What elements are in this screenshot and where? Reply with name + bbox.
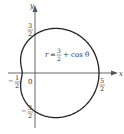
- svg-text:5: 5: [100, 77, 104, 85]
- svg-text:r: r: [45, 51, 49, 59]
- x-intercept-left-label: − 1 2: [8, 74, 20, 90]
- equation-label: r = 3 2 + cos θ: [45, 47, 89, 62]
- x-axis-label: x: [119, 70, 123, 78]
- origin-label: 0: [28, 78, 32, 86]
- svg-text:−: −: [21, 107, 26, 115]
- svg-text:3: 3: [28, 104, 32, 112]
- svg-text:1: 1: [15, 74, 19, 82]
- svg-text:2: 2: [28, 30, 32, 38]
- x-axis-arrow-icon: [111, 71, 118, 76]
- x-intercept-right-label: 5 2: [100, 77, 106, 93]
- y-intercept-top-label: 3 2: [28, 22, 34, 38]
- svg-text:+ cos θ: + cos θ: [63, 51, 89, 59]
- svg-text:3: 3: [57, 47, 61, 54]
- svg-text:3: 3: [28, 22, 32, 30]
- y-intercept-bottom-label: − 3 2: [21, 104, 33, 120]
- svg-text:2: 2: [100, 85, 104, 93]
- svg-text:−: −: [8, 77, 13, 85]
- svg-text:=: =: [50, 51, 56, 59]
- svg-text:2: 2: [28, 112, 32, 120]
- polar-plot: y x 0 3 2 − 3 2 − 1 2 5 2 r = 3 2 + cos …: [0, 0, 124, 134]
- svg-text:2: 2: [15, 82, 19, 90]
- svg-text:2: 2: [57, 55, 61, 62]
